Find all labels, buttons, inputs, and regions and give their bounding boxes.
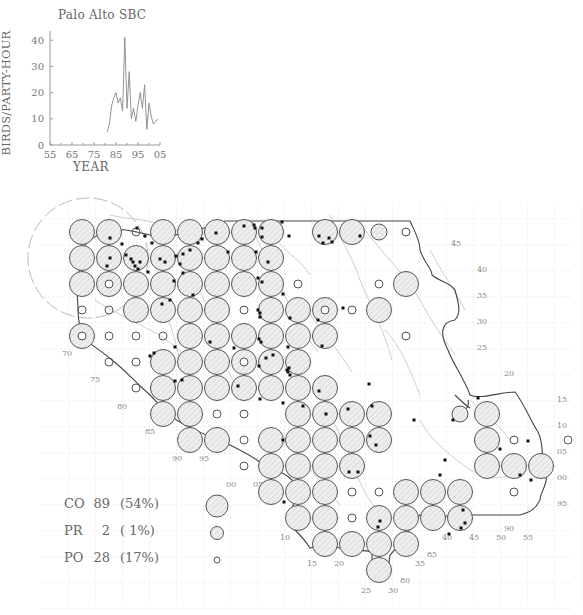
- observation-dot: [282, 402, 285, 405]
- confirmed-circle: [259, 246, 284, 271]
- confirmed-circle: [151, 220, 176, 245]
- observation-dot: [289, 317, 292, 320]
- observation-dot: [233, 347, 236, 350]
- possible-circle: [78, 306, 86, 314]
- observation-dot: [257, 309, 260, 312]
- observation-dot: [137, 268, 140, 271]
- grid-label: 35: [415, 559, 425, 568]
- confirmed-circle: [259, 272, 284, 297]
- confirmed-circle: [205, 298, 230, 323]
- observation-dot: [368, 383, 371, 386]
- confirmed-circle: [259, 376, 284, 401]
- confirmed-circle: [178, 402, 203, 427]
- observation-dot: [460, 527, 463, 530]
- possible-circle: [375, 488, 383, 496]
- observation-dot: [181, 379, 184, 382]
- legend-count: 89: [88, 496, 110, 511]
- legend-count: 2: [88, 523, 110, 538]
- confirmed-circle: [367, 298, 392, 323]
- observation-dot: [182, 272, 185, 275]
- grid-label: 00: [226, 480, 236, 489]
- observation-dot: [144, 235, 147, 238]
- possible-circle: [240, 436, 248, 444]
- observation-dot: [132, 261, 135, 264]
- observation-dot: [227, 251, 230, 254]
- observation-dot: [530, 479, 533, 482]
- observation-dot: [282, 439, 285, 442]
- observation-dot: [265, 357, 268, 360]
- possible-circle: [132, 358, 140, 366]
- observation-dot: [175, 255, 178, 258]
- confirmed-circle: [70, 246, 95, 271]
- grid-label: 35: [477, 291, 487, 300]
- observation-dot: [499, 448, 502, 451]
- observation-dot: [182, 253, 185, 256]
- medium-circle-icon: [202, 518, 232, 548]
- observation-dot: [317, 319, 320, 322]
- inner-possible-circle: [240, 358, 248, 366]
- confirmed-circle: [367, 402, 392, 427]
- confirmed-circle: [205, 350, 230, 375]
- grid-label: 90: [504, 524, 514, 533]
- observation-dot: [125, 254, 128, 257]
- confirmed-circle: [286, 324, 311, 349]
- grid-label: 55: [523, 533, 533, 542]
- observation-dot: [153, 352, 156, 355]
- observation-dot: [257, 277, 260, 280]
- confirmed-circle: [313, 324, 338, 349]
- observation-dot: [209, 341, 212, 344]
- confirmed-circle: [340, 402, 365, 427]
- observation-dot: [258, 338, 261, 341]
- grid-label: 20: [334, 559, 344, 568]
- grid-label: 80: [117, 402, 127, 411]
- observation-dot: [359, 235, 362, 238]
- observation-dot: [288, 367, 291, 370]
- observation-dot: [164, 261, 167, 264]
- legend-count: 28: [88, 550, 110, 565]
- confirmed-circle: [340, 532, 365, 557]
- observation-dot: [318, 235, 321, 238]
- confirmed-circle: [340, 428, 365, 453]
- observation-dot: [321, 345, 324, 348]
- confirmed-circle: [502, 454, 527, 479]
- observation-dot: [109, 257, 112, 260]
- confirmed-circle: [475, 428, 500, 453]
- inner-possible-circle: [78, 332, 86, 340]
- possible-circle: [240, 462, 248, 470]
- observation-dot: [254, 227, 257, 230]
- observation-dot: [130, 258, 133, 261]
- possible-circle: [240, 306, 248, 314]
- observation-dot: [322, 242, 325, 245]
- confirmed-circle: [178, 324, 203, 349]
- observation-dot: [237, 385, 240, 388]
- confirmed-circle: [232, 324, 257, 349]
- possible-circle: [348, 514, 356, 522]
- observation-dot: [527, 440, 530, 443]
- grid-label: 70: [62, 349, 72, 358]
- confirmed-circle: [259, 298, 284, 323]
- observation-dot: [288, 235, 291, 238]
- observation-dot: [151, 242, 154, 245]
- confirmed-circle: [475, 454, 500, 479]
- observation-dot: [121, 243, 124, 246]
- confirmed-circle: [70, 272, 95, 297]
- confirmed-circle: [232, 246, 257, 271]
- confirmed-circle: [232, 220, 257, 245]
- observation-dot: [452, 419, 455, 422]
- confirmed-circle: [124, 272, 149, 297]
- grid-label: 40: [442, 533, 452, 542]
- observation-dot: [347, 408, 350, 411]
- confirmed-circle: [205, 324, 230, 349]
- observation-dot: [189, 249, 192, 252]
- possible-circle: [348, 306, 356, 314]
- possible-circle: [564, 436, 572, 444]
- legend-code: PR: [64, 523, 83, 538]
- observation-dot: [462, 509, 465, 512]
- observation-dot: [379, 520, 382, 523]
- observation-dot: [259, 316, 262, 319]
- confirmed-circle: [151, 298, 176, 323]
- confirmed-circle: [313, 506, 338, 531]
- grid-label: 15: [307, 559, 317, 568]
- observation-dot: [261, 236, 264, 239]
- confirmed-circle: [475, 402, 500, 427]
